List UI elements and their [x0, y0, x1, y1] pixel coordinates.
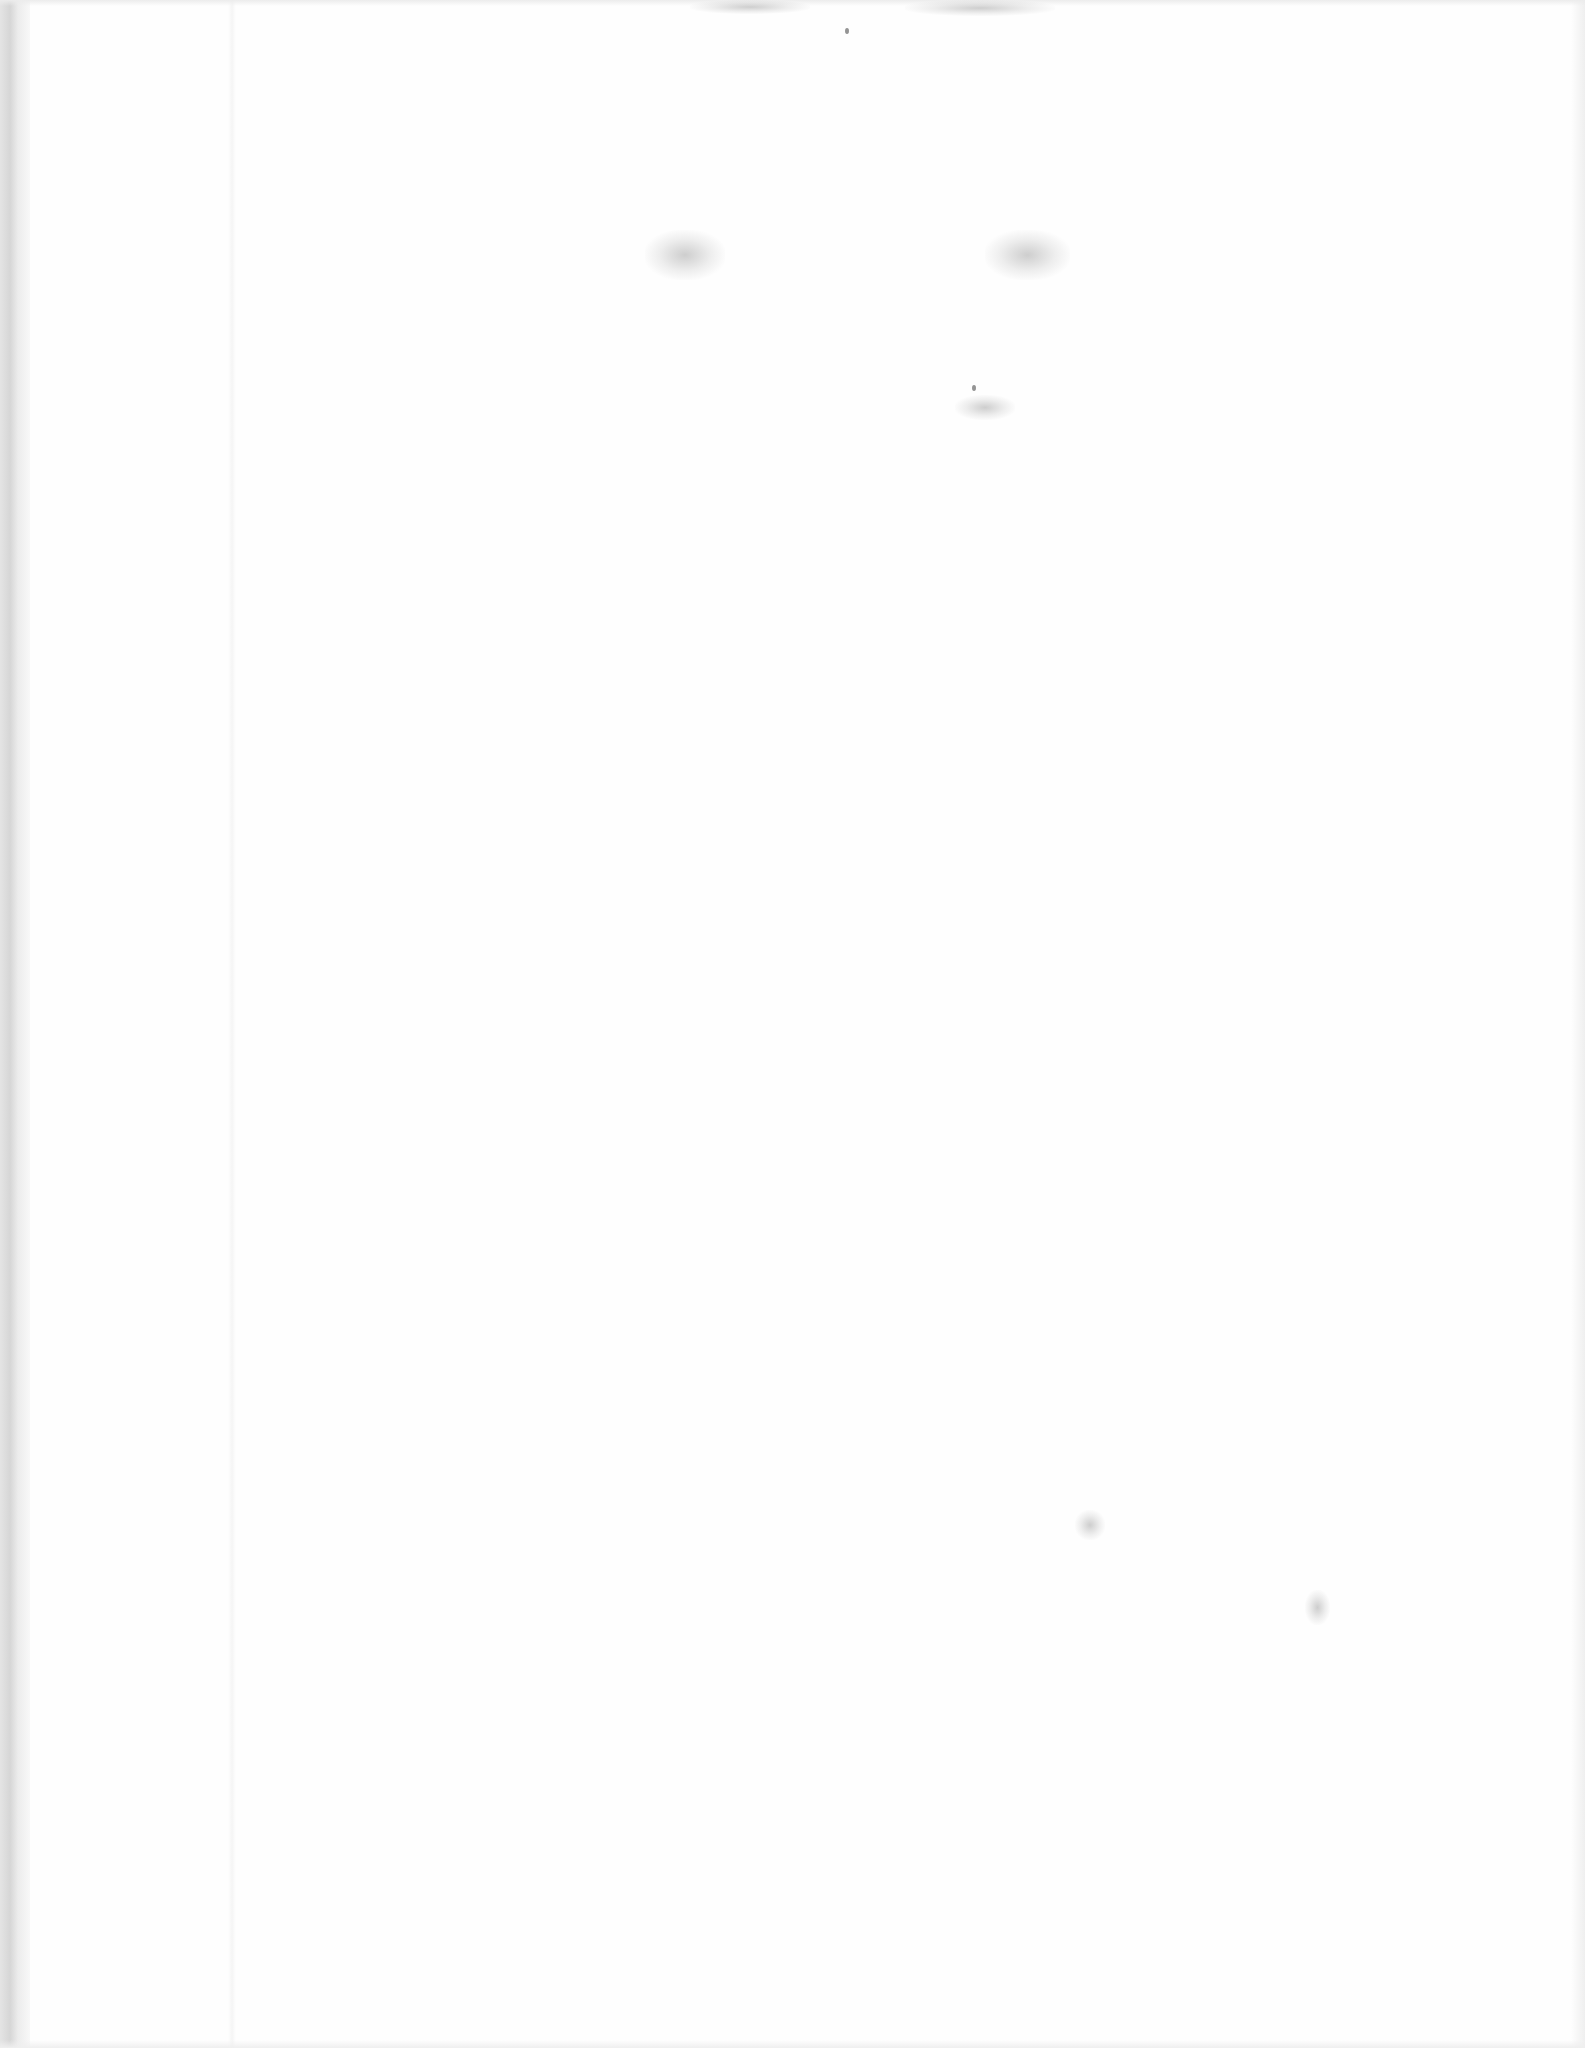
scan-smudge	[955, 395, 1015, 420]
scan-speck	[845, 28, 849, 34]
scanned-page	[0, 0, 1585, 2048]
scan-smudge	[645, 230, 725, 280]
fold-line	[228, 0, 236, 2048]
scan-smudge	[1075, 1510, 1105, 1540]
scan-smudge	[985, 230, 1070, 280]
scan-smudge	[690, 0, 810, 14]
scan-speck	[972, 385, 976, 391]
scan-smudge	[905, 0, 1055, 16]
binding-edge-shadow	[0, 0, 30, 2048]
bottom-edge-shadow	[0, 2040, 1585, 2048]
scan-smudge	[1305, 1590, 1330, 1625]
right-edge-shadow	[1571, 0, 1585, 2048]
